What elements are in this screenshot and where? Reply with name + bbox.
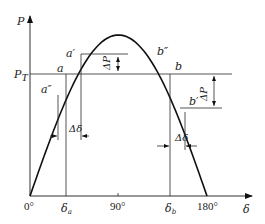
y-axis-label: P xyxy=(16,15,25,28)
point-a-prime-label: a′ xyxy=(66,47,76,60)
delta-p-label-top: ΔP xyxy=(101,56,112,71)
tick-label-0: 0° xyxy=(24,200,34,212)
point-a-dprime-label: a″ xyxy=(41,83,53,96)
tick-label-90: 90° xyxy=(110,200,125,212)
point-b-label: b xyxy=(175,60,182,73)
delta-delta-label-right: Δδ xyxy=(174,132,188,143)
point-b-dprime-label: b″ xyxy=(157,45,169,58)
tick-label-delta-b: δb xyxy=(165,202,177,216)
delta-delta-label-left: Δδ xyxy=(68,123,82,134)
power-level-label: PT xyxy=(13,68,28,83)
tick-label-180: 180° xyxy=(197,200,218,212)
x-axis-label: δ xyxy=(243,203,250,216)
point-b-prime-label: b′ xyxy=(189,95,199,108)
point-a-label: a xyxy=(57,62,64,75)
delta-p-label-right: ΔP xyxy=(198,87,209,102)
power-angle-diagram: P δ PT ΔP ΔP Δδ Δδ a′ a a″ b″ b b′ 0° δa… xyxy=(0,0,265,224)
tick-label-delta-a: δa xyxy=(61,202,72,216)
